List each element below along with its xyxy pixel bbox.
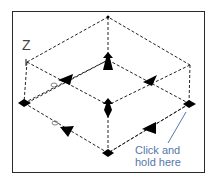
rotation-icons <box>51 83 58 125</box>
left-upper-arrow-handle[interactable] <box>58 74 73 85</box>
top-vertex-marker <box>107 16 110 19</box>
dashed-wireframe <box>24 17 190 153</box>
isometric-gizmo <box>0 0 216 182</box>
center-move-handle[interactable] <box>103 98 113 118</box>
hint-line-2: hold here <box>135 156 181 168</box>
move-up-arrow-handle[interactable] <box>103 52 113 70</box>
handles <box>18 16 196 158</box>
hint-pointer-line <box>168 112 186 143</box>
rotate-icon-upper <box>51 83 57 87</box>
right-upper-arrow-handle[interactable] <box>143 75 157 86</box>
z-axis-label: Z <box>22 38 31 52</box>
hint-line-1: Click and <box>135 144 181 156</box>
right-lower-arrow-handle[interactable] <box>142 122 156 134</box>
click-hold-hint: Click and hold here <box>135 144 181 168</box>
